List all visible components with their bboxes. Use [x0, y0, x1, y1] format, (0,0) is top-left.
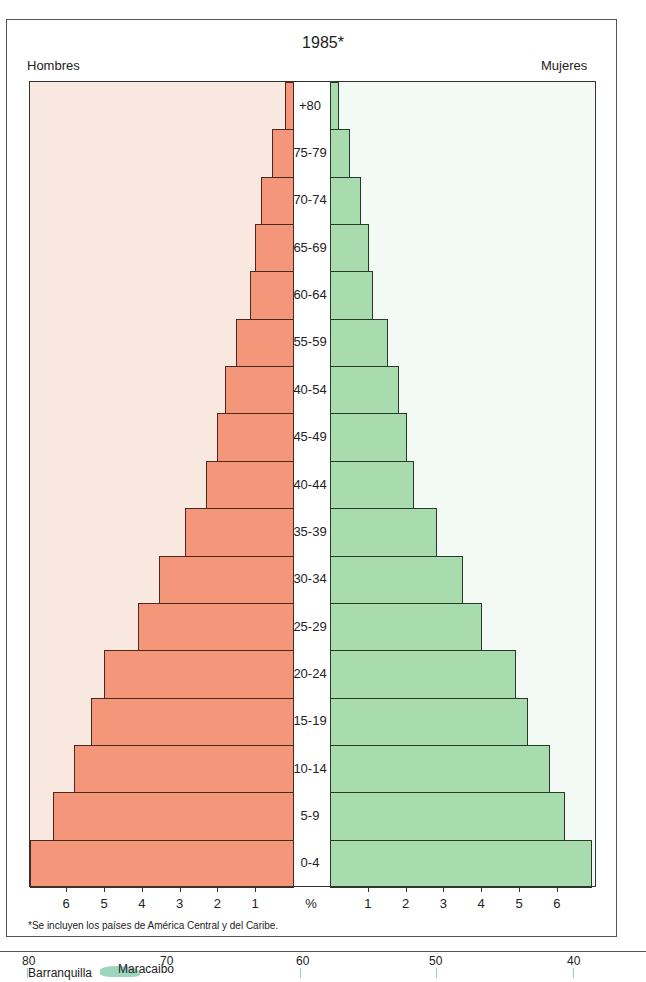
x-axis-tick-label: 1	[358, 896, 378, 911]
x-axis-tick-label: 6	[547, 896, 567, 911]
x-axis-tick-label: 1	[245, 896, 265, 911]
map-fragment	[0, 951, 646, 982]
x-axis-tick-label: 3	[170, 896, 190, 911]
x-axis-tick-label: 4	[471, 896, 491, 911]
x-axis-tick	[557, 887, 558, 892]
map-place-label: Maracaibo	[118, 962, 174, 976]
x-axis-tick-label: 2	[207, 896, 227, 911]
x-axis-tick	[180, 887, 181, 892]
map-longitude-label: 40	[567, 954, 580, 968]
map-longitude-label: 60	[296, 954, 309, 968]
females-label: Mujeres	[541, 58, 587, 73]
x-axis-tick	[481, 887, 482, 892]
x-axis-tick	[255, 887, 256, 892]
x-axis-tick-label: 2	[396, 896, 416, 911]
x-axis-tick	[368, 887, 369, 892]
map-place-label: Barranquilla	[28, 966, 92, 980]
axis-unit-label: %	[301, 896, 321, 911]
map-longitude-label: 50	[429, 954, 442, 968]
map-meridian	[436, 968, 437, 978]
x-axis-tick	[66, 887, 67, 892]
males-label: Hombres	[27, 58, 80, 73]
x-axis-tick	[142, 887, 143, 892]
x-axis-tick	[406, 887, 407, 892]
x-axis-tick-label: 4	[132, 896, 152, 911]
map-meridian	[573, 968, 574, 978]
x-axis-tick-label: 5	[509, 896, 529, 911]
x-axis-tick-label: 6	[56, 896, 76, 911]
plot-area	[29, 81, 596, 887]
x-axis-tick	[217, 887, 218, 892]
x-axis-tick-label: 5	[94, 896, 114, 911]
footnote: *Se incluyen los países de América Centr…	[28, 920, 278, 931]
chart-title: 1985*	[0, 34, 646, 52]
x-axis-tick	[104, 887, 105, 892]
x-axis-tick	[443, 887, 444, 892]
map-meridian	[300, 968, 301, 978]
x-axis-tick-label: 3	[433, 896, 453, 911]
x-axis-tick	[519, 887, 520, 892]
